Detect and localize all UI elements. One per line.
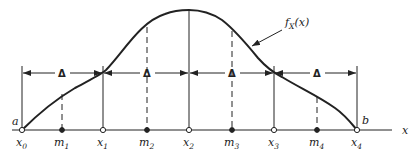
point-m2 [145, 128, 150, 133]
delta-label-3: Δ [228, 68, 236, 79]
delta-label-2: Δ [143, 68, 151, 79]
curve-label-pointer [252, 30, 282, 46]
point-x3 [271, 127, 276, 132]
delta-label-1: Δ [58, 68, 66, 79]
label-x3: x3 [268, 136, 279, 151]
x-axis-label: x [402, 124, 409, 137]
right-bound-label: b [362, 114, 369, 127]
label-m4: m4 [309, 136, 324, 151]
label-x2: x2 [183, 136, 194, 151]
label-x4: x4 [351, 136, 362, 151]
curve-label: fX(x) [284, 16, 309, 31]
left-bound-label: a [12, 115, 19, 128]
point-x1 [100, 127, 105, 132]
delta-label-4: Δ [313, 68, 321, 79]
pdf-partition-diagram: x Δ Δ Δ Δ fX(x) a b [0, 0, 415, 156]
label-m2: m2 [139, 136, 154, 151]
label-m3: m3 [224, 136, 239, 151]
point-m4 [315, 128, 320, 133]
label-x0: x0 [16, 136, 27, 151]
point-x2 [186, 127, 191, 132]
point-x0 [19, 127, 24, 132]
label-x1: x1 [97, 136, 108, 151]
point-x4 [354, 127, 359, 132]
point-m3 [230, 128, 235, 133]
point-m1 [60, 128, 65, 133]
label-m1: m1 [54, 136, 69, 151]
